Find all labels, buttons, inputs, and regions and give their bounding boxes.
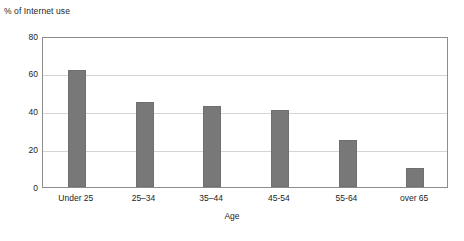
- x-tick-label: over 65: [380, 193, 448, 203]
- y-tick-label: 80: [4, 33, 38, 42]
- x-axis-title: Age: [0, 211, 464, 221]
- bar: [271, 110, 289, 187]
- x-tick-label: 45-54: [245, 193, 313, 203]
- y-tick-label: 0: [4, 184, 38, 193]
- bar: [203, 106, 221, 187]
- bars-layer: [43, 38, 447, 187]
- x-tick-label: 25–34: [110, 193, 178, 203]
- y-tick-label: 40: [4, 108, 38, 117]
- plot-area: [42, 37, 448, 188]
- y-tick-label: 60: [4, 70, 38, 79]
- bar: [339, 140, 357, 187]
- y-tick-label: 20: [4, 146, 38, 155]
- bar: [136, 102, 154, 187]
- bar-chart: % of Internet use 020406080 Under 2525–3…: [0, 0, 464, 241]
- bar: [406, 168, 424, 187]
- x-tick-label: 35–44: [177, 193, 245, 203]
- x-tick-label: 55-64: [313, 193, 381, 203]
- bar: [68, 70, 86, 187]
- x-tick-label: Under 25: [42, 193, 110, 203]
- y-axis-caption: % of Internet use: [4, 6, 70, 17]
